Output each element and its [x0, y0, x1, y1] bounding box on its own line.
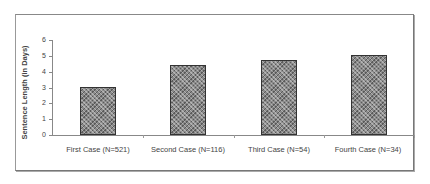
x-tick [143, 135, 144, 138]
x-tick [234, 135, 235, 138]
bar-third-case [261, 60, 297, 135]
x-tick [414, 135, 415, 138]
bar-fourth-case [351, 55, 387, 135]
y-tick-label: 4 [38, 68, 46, 76]
y-tick-5 [49, 56, 52, 57]
y-axis-title: Sentence Length (in Days) [20, 43, 29, 143]
y-tick-label: 3 [38, 84, 46, 92]
y-tick-label: 2 [38, 99, 46, 107]
x-label-second-case: Second Case (N=116) [143, 145, 233, 154]
x-label-fourth-case: Fourth Case (N=34) [323, 145, 413, 154]
x-label-third-case: Third Case (N=54) [234, 145, 324, 154]
y-tick-label: 0 [38, 131, 46, 139]
y-axis-line [52, 40, 53, 136]
x-tick [324, 135, 325, 138]
y-tick-6 [49, 40, 52, 41]
x-label-first-case: First Case (N=521) [53, 145, 143, 154]
y-tick-3 [49, 88, 52, 89]
y-tick-2 [49, 103, 52, 104]
bar-second-case [170, 65, 206, 135]
y-tick-label: 1 [38, 115, 46, 123]
bar-first-case [80, 87, 116, 135]
y-tick-1 [49, 119, 52, 120]
y-tick-label: 6 [38, 36, 46, 44]
y-tick-4 [49, 72, 52, 73]
y-tick-label: 5 [38, 52, 46, 60]
